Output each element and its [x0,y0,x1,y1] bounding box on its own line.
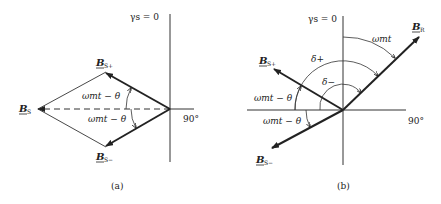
label-bs-minus: B S− [95,151,113,163]
svg-text:S−: S− [104,156,113,163]
angle-arc-upper [126,88,131,109]
angle-label-lower: ωmt − θ [88,114,127,124]
angle-label-delta-minus: δ− [322,77,335,87]
label-bs-minus: B S− [255,154,273,166]
axis-right-label: 90° [183,114,199,124]
angle-label-upper: ωmt − θ [254,93,293,103]
angle-arc-delta-plus [295,61,378,110]
diagram-a: γs = 0 90° ωmt − θ ωmt − θ B S+ B S− B S… [18,12,199,191]
svg-text:R: R [420,26,425,33]
angle-label-upper: ωmt − θ [82,91,121,101]
svg-text:S+: S+ [267,60,276,67]
angle-label-lower: ωmt − θ [263,116,302,126]
svg-text:S−: S− [264,159,273,166]
axis-top-label: γs = 0 [308,14,337,24]
label-bs-plus: B S+ [258,55,276,67]
axis-right-label: 90° [408,116,424,126]
angle-label-wmt: ωmt [372,34,392,44]
diagram-b: γs = 0 90° ωmt δ+ δ− ωmt − θ ωmt − θ B R… [247,14,425,191]
label-bs-plus: B S+ [95,57,113,69]
svg-text:S+: S+ [104,62,113,69]
axis-top-label: γs = 0 [130,12,159,22]
phasor-diagrams: γs = 0 90° ωmt − θ ωmt − θ B S+ B S− B S… [0,0,441,204]
caption-a: (a) [111,181,123,191]
angle-arc-delta-minus [320,84,361,110]
label-br: B R [411,21,425,33]
label-bs: B S [18,103,31,115]
angle-label-delta-plus: δ+ [311,54,324,64]
svg-text:S: S [27,108,31,115]
angle-arc-lower [131,109,136,128]
br-vector [343,37,419,110]
angle-arc-upper [295,86,301,110]
caption-b: (b) [337,181,350,191]
angle-arc-lower [306,110,310,127]
